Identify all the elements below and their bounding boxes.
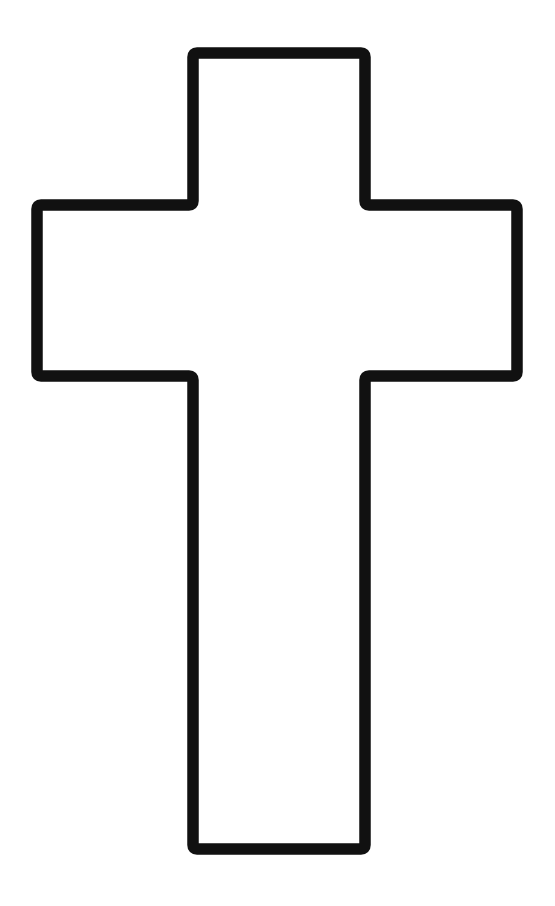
cross-figure: Black outline drawing of a Latin cross o… (0, 0, 555, 906)
image-canvas: Black outline drawing of a Latin cross o… (0, 0, 555, 906)
